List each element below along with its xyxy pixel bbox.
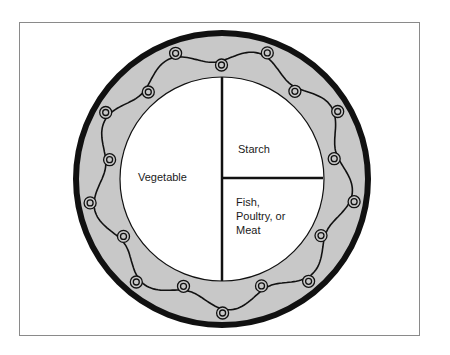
ring-icon: [84, 197, 96, 209]
ring-icon: [100, 107, 112, 119]
ring-icon: [216, 59, 228, 71]
ring-icon: [332, 106, 344, 118]
ring-icon: [303, 275, 315, 287]
plate-diagram: [0, 0, 450, 355]
section-label-vegetable: Vegetable: [138, 170, 187, 184]
ring-icon: [261, 47, 273, 59]
ring-icon: [315, 230, 327, 242]
protein-label-line-1: Fish,: [236, 195, 285, 209]
section-label-protein: Fish, Poultry, or Meat: [236, 195, 285, 237]
ring-icon: [217, 307, 229, 319]
ring-icon: [289, 85, 301, 97]
section-label-starch: Starch: [238, 142, 270, 156]
protein-label-line-2: Poultry, or: [236, 209, 285, 223]
ring-icon: [170, 47, 182, 59]
ring-icon: [348, 196, 360, 208]
ring-icon: [256, 280, 268, 292]
ring-icon: [142, 86, 154, 98]
ring-icon: [118, 230, 130, 242]
protein-label-line-3: Meat: [236, 223, 285, 237]
ring-icon: [178, 280, 190, 292]
ring-icon: [104, 154, 116, 166]
ring-icon: [130, 276, 142, 288]
ring-icon: [328, 153, 340, 165]
